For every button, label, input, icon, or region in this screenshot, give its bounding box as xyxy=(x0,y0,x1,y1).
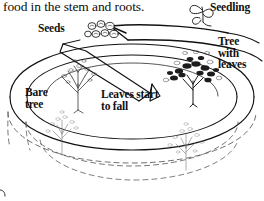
label-seedling: Seedling xyxy=(210,2,250,14)
leafy-tree-illustration xyxy=(163,50,222,107)
bare-tree-illustration xyxy=(62,60,97,113)
diagram-page: food in the stem and roots. Seeds Seedli… xyxy=(0,0,264,201)
corner-mark xyxy=(0,190,5,196)
label-leaves-start-to-fall: Leaves start to fall xyxy=(101,89,158,112)
label-tree-with-leaves: Tree with leaves xyxy=(218,36,246,71)
seeds-connector xyxy=(63,40,80,44)
label-seeds: Seeds xyxy=(38,23,64,35)
return-arrow-band xyxy=(110,25,234,49)
lower-dashed-bands xyxy=(8,112,256,180)
caption-text: food in the stem and roots. xyxy=(3,0,144,15)
label-bare-tree: Bare tree xyxy=(25,87,48,110)
